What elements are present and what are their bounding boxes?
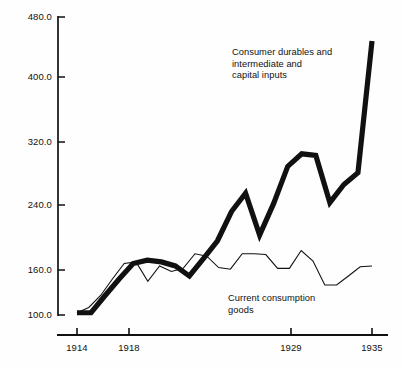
series-annotation-current-consumption-goods: Current consumption goods [228, 293, 315, 316]
x-tick-label-1914: 1914 [55, 342, 99, 353]
y-tick-label-100: 100.0 [2, 309, 52, 320]
series-line-current-consumption-goods [77, 251, 372, 313]
y-tick-label-240: 240.0 [2, 199, 52, 210]
y-tick-label-160: 160.0 [2, 264, 52, 275]
y-tick-label-480: 480.0 [2, 11, 52, 22]
x-tick-label-1935: 1935 [350, 342, 394, 353]
y-tick-label-320: 320.0 [2, 136, 52, 147]
x-tick-label-1929: 1929 [269, 342, 313, 353]
y-tick-label-400: 400.0 [2, 71, 52, 82]
chart-plot-area [0, 0, 403, 367]
y-axis-ticks [58, 17, 65, 315]
x-tick-label-1918: 1918 [107, 342, 151, 353]
chart-figure: 480.0 400.0 320.0 240.0 160.0 100.0 1914… [0, 0, 403, 367]
series-annotation-consumer-durables: Consumer durables and intermediate and c… [232, 47, 332, 82]
